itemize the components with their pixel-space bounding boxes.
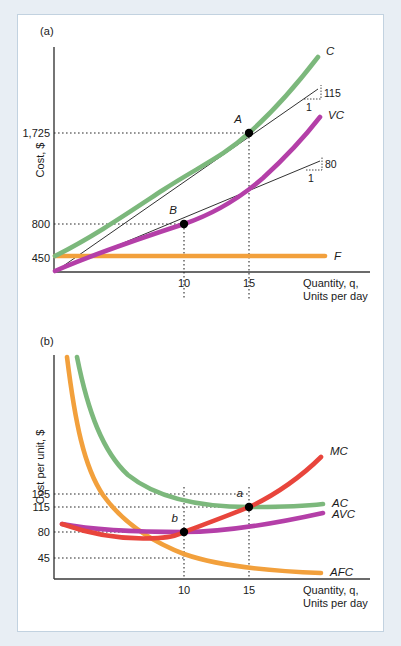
panel-b-ytick-125: 125 — [32, 488, 50, 500]
point-B-label: B — [169, 204, 177, 216]
point-A-marker — [245, 129, 253, 137]
panel-a: (a) Cost, $ 1,725 800 450 10 15 — [18, 15, 385, 327]
panel-a-y-axis-title: Cost, $ — [34, 143, 46, 178]
point-B-marker — [180, 220, 188, 228]
panel-a-x-axis-title-line2: Units per day — [303, 290, 368, 302]
panel-b: (b) Cost per unit, $ 125 115 80 45 — [18, 327, 385, 633]
panel-a-tag: (a) — [40, 25, 54, 37]
panel-a-slope-run-115: 1 — [306, 101, 312, 113]
panel-b-xtick-10: 10 — [178, 584, 190, 596]
point-a-marker — [245, 503, 253, 511]
panel-a-xtick-10: 10 — [178, 277, 190, 289]
average-variable-cost-curve-label: AVC — [331, 508, 356, 520]
panel-a-slope-run-80: 1 — [308, 172, 314, 184]
panel-b-x-axis-title-line2: Units per day — [303, 597, 368, 609]
variable-cost-curve — [55, 117, 320, 271]
marginal-cost-curve — [62, 457, 321, 538]
point-A-label: A — [233, 113, 242, 125]
panel-a-slope-value-80: 80 — [325, 158, 337, 170]
point-a-label: a — [237, 487, 243, 499]
panel-b-ytick-115: 115 — [32, 501, 50, 513]
panel-a-chart: Cost, $ 1,725 800 450 10 15 Quantity, q — [18, 15, 385, 327]
panel-a-slope-value-115: 115 — [324, 87, 341, 99]
panel-a-x-axis-title-line1: Quantity, q, — [303, 277, 358, 289]
panel-b-x-axis-title-line1: Quantity, q, — [303, 584, 358, 596]
fixed-cost-curve-label: F — [334, 250, 342, 262]
point-b-label: b — [172, 512, 179, 524]
panel-b-tag: (b) — [40, 335, 54, 347]
panel-b-xtick-15: 15 — [243, 584, 255, 596]
average-fixed-cost-curve-label: AFC — [329, 566, 354, 578]
figure-root: (a) Cost, $ 1,725 800 450 10 15 — [0, 0, 401, 646]
panel-a-xtick-15: 15 — [243, 277, 255, 289]
panel-a-tangent-at-A — [56, 89, 318, 271]
total-cost-curve-label: C — [326, 45, 335, 57]
panel-a-ytick-450: 450 — [32, 252, 50, 264]
average-fixed-cost-curve — [67, 357, 321, 573]
point-b-marker — [180, 528, 188, 536]
marginal-cost-curve-label: MC — [330, 445, 349, 457]
panel-b-ytick-45: 45 — [38, 552, 50, 564]
panel-a-ytick-800: 800 — [32, 218, 50, 230]
figure-inner-panel: (a) Cost, $ 1,725 800 450 10 15 — [17, 14, 384, 632]
panel-b-ytick-80: 80 — [38, 526, 50, 538]
panel-b-chart: Cost per unit, $ 125 115 80 45 10 15 — [18, 327, 385, 633]
panel-a-ytick-1725: 1,725 — [22, 127, 50, 139]
variable-cost-curve-label: VC — [328, 109, 345, 121]
